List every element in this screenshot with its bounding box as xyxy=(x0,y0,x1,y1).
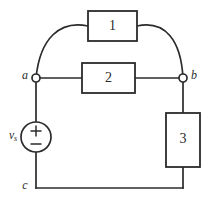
component-box-3-label: 3 xyxy=(180,131,187,146)
wire-box1-to-b-arc xyxy=(137,25,183,78)
node-b-terminal[interactable] xyxy=(179,74,187,82)
component-box-1-label: 1 xyxy=(109,18,116,33)
node-c-label: c xyxy=(22,178,28,192)
component-box-2-label: 2 xyxy=(105,70,112,85)
node-a-terminal[interactable] xyxy=(32,74,40,82)
wire-a-to-box1-arc xyxy=(36,25,88,78)
voltage-source-label-subscript: s xyxy=(14,134,17,143)
voltage-source-label: vs xyxy=(9,129,17,143)
circuit-diagram: 1 2 3 a b c vs xyxy=(0,0,210,205)
circuit-schematic-canvas: 1 2 3 a b c vs xyxy=(0,0,210,205)
node-a-label: a xyxy=(22,68,28,82)
node-b-label: b xyxy=(191,68,197,82)
